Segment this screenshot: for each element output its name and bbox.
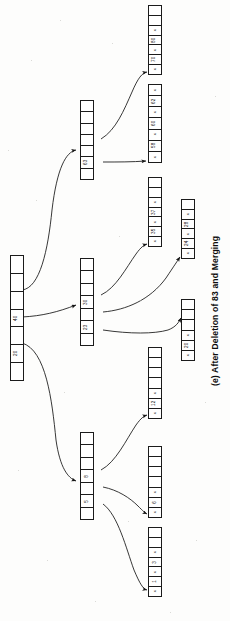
internal-node-30-23-cell-6-pointer xyxy=(81,334,93,345)
leaf-node-12-cell-2-empty xyxy=(149,368,161,378)
internal-node-30-23-cell-1-pointer xyxy=(81,271,93,283)
leaf-node-20[interactable]: x20x xyxy=(181,299,195,361)
leaf-node-28-24[interactable]: x28x24x xyxy=(181,199,195,259)
leaf-node-62-60-58-cell-6-label: x xyxy=(153,156,157,158)
leaf-node-28-24-cell-0-empty xyxy=(182,200,194,210)
leaf-node-20-cell-0-empty xyxy=(182,300,194,310)
pointer-arrows xyxy=(0,0,230,621)
leaf-node-37-35-cell-4-x: x xyxy=(149,217,161,227)
leaf-node-62-60-58-cell-0-x: x xyxy=(149,85,161,96)
leaf-node-28-24-cell-3-label: x xyxy=(186,233,190,235)
leaf-node-37-35-cell-5-label: 35 xyxy=(153,229,158,234)
leaf-node-37-35-cell-5-key: 35 xyxy=(149,227,161,237)
leaf-node-12-cell-3-empty xyxy=(149,378,161,388)
leaf-node-80-70[interactable]: x80x70x xyxy=(148,5,162,75)
figure-caption-text: (e) After Deletion of 83 and Merging xyxy=(210,235,220,385)
internal-node-8-5-cell-5-key: 5 xyxy=(81,495,93,507)
leaf-node-6-cell-5-key: 6 xyxy=(149,498,161,508)
leaf-node-80-70-cell-4-label: x xyxy=(153,49,157,51)
internal-node-8-5-cell-5-label: 5 xyxy=(85,499,90,502)
leaf-node-37-35-cell-4-label: x xyxy=(153,221,157,223)
leaf-node-62-60-58-cell-0-label: x xyxy=(153,89,157,91)
leaf-node-37-35-cell-3-label: 37 xyxy=(153,209,158,214)
leaf-node-80-70-cell-2-label: x xyxy=(153,29,157,31)
leaf-node-3-1[interactable]: x3x1x xyxy=(148,527,162,597)
leaf-node-3-1-cell-5-key: 1 xyxy=(149,577,161,587)
leaf-node-6-cell-1-empty xyxy=(149,457,161,467)
internal-node-8-5[interactable]: 85 xyxy=(80,432,94,520)
leaf-node-6-cell-2-empty xyxy=(149,467,161,477)
internal-node-8-5-cell-2-pointer xyxy=(81,458,93,470)
leaf-node-12[interactable]: x12x xyxy=(148,347,162,419)
root-node[interactable]: 4020 xyxy=(10,255,24,381)
leaf-node-12-cell-1-empty xyxy=(149,358,161,368)
leaf-node-80-70-cell-6-x: x xyxy=(149,65,161,74)
internal-node-8-5-cell-1-pointer xyxy=(81,445,93,457)
leaf-node-12-cell-5-key: 12 xyxy=(149,399,161,409)
internal-node-63-cell-3-pointer xyxy=(81,135,93,146)
leaf-node-28-24-cell-2-key: 28 xyxy=(182,220,194,230)
leaf-node-12-cell-5-label: 12 xyxy=(153,401,158,406)
internal-node-63-cell-1-pointer xyxy=(81,112,93,123)
internal-node-63-cell-2-pointer xyxy=(81,124,93,135)
leaf-node-62-60-58-cell-4-label: x xyxy=(153,133,157,135)
root-node-cell-3-key: 40 xyxy=(11,310,23,328)
b-plus-tree-figure: 4020 63 3023 85 x80x70x x62x60x58x x37x3… xyxy=(0,0,230,621)
leaf-node-20-cell-4-label: 20 xyxy=(186,343,191,348)
internal-node-30-23-cell-0-pointer xyxy=(81,259,93,271)
leaf-node-28-24-cell-4-label: 24 xyxy=(186,241,191,246)
leaf-node-62-60-58-cell-2-x: x xyxy=(149,107,161,118)
internal-node-30-23[interactable]: 3023 xyxy=(80,258,94,346)
root-node-cell-5-key: 20 xyxy=(11,345,23,363)
leaf-node-6[interactable]: x6x xyxy=(148,446,162,518)
leaf-node-12-cell-6-x: x xyxy=(149,409,161,418)
internal-node-63-cell-4-pointer xyxy=(81,146,93,157)
root-node-cell-3-label: 40 xyxy=(15,315,20,320)
root-node-cell-2-pointer xyxy=(11,292,23,310)
leaf-node-28-24-cell-1-x: x xyxy=(182,210,194,220)
internal-node-30-23-cell-5-key: 23 xyxy=(81,321,93,333)
internal-node-30-23-cell-5-label: 23 xyxy=(85,324,90,329)
leaf-node-80-70-cell-3-label: 80 xyxy=(153,37,158,42)
leaf-node-20-cell-4-key: 20 xyxy=(182,341,194,351)
leaf-node-28-24-cell-5-label: x xyxy=(186,252,190,254)
leaf-node-3-1-cell-6-x: x xyxy=(149,587,161,596)
leaf-node-80-70-cell-6-label: x xyxy=(153,68,157,70)
leaf-node-20-cell-2-empty xyxy=(182,320,194,330)
leaf-node-80-70-cell-2-x: x xyxy=(149,26,161,36)
leaf-node-62-60-58-cell-5-key: 58 xyxy=(149,141,161,152)
root-node-cell-6-pointer xyxy=(11,363,23,380)
internal-node-63[interactable]: 63 xyxy=(80,100,94,180)
leaf-node-20-cell-5-label: x xyxy=(186,354,190,356)
leaf-node-3-1-cell-2-label: x xyxy=(153,551,157,553)
leaf-node-80-70-cell-1-empty xyxy=(149,16,161,26)
leaf-node-3-1-cell-6-label: x xyxy=(153,590,157,592)
leaf-node-80-70-cell-5-key: 70 xyxy=(149,55,161,65)
leaf-node-28-24-cell-1-label: x xyxy=(186,213,190,215)
internal-node-63-cell-5-key: 63 xyxy=(81,157,93,168)
leaf-node-80-70-cell-5-label: 70 xyxy=(153,57,158,62)
leaf-node-28-24-cell-3-x: x xyxy=(182,229,194,239)
figure-caption: (e) After Deletion of 83 and Merging xyxy=(202,0,228,621)
leaf-node-37-35[interactable]: x37x35x xyxy=(148,177,162,247)
internal-node-63-cell-6-pointer xyxy=(81,169,93,179)
leaf-node-6-cell-4-label: x xyxy=(153,491,157,493)
leaf-node-6-cell-6-label: x xyxy=(153,511,157,513)
internal-node-8-5-cell-3-key: 8 xyxy=(81,470,93,482)
leaf-node-62-60-58[interactable]: x62x60x58x xyxy=(148,84,162,163)
leaf-node-80-70-cell-3-key: 80 xyxy=(149,36,161,46)
leaf-node-80-70-cell-0-empty xyxy=(149,6,161,16)
leaf-node-37-35-cell-1-empty xyxy=(149,188,161,198)
leaf-node-62-60-58-cell-1-key: 62 xyxy=(149,96,161,107)
leaf-node-37-35-cell-6-x: x xyxy=(149,237,161,246)
leaf-node-62-60-58-cell-4-x: x xyxy=(149,130,161,141)
leaf-node-20-cell-3-x: x xyxy=(182,331,194,341)
leaf-node-20-cell-3-label: x xyxy=(186,334,190,336)
internal-node-30-23-cell-3-label: 30 xyxy=(85,299,90,304)
leaf-node-12-cell-4-label: x xyxy=(153,392,157,394)
internal-node-63-cell-0-pointer xyxy=(81,101,93,112)
internal-node-30-23-cell-4-pointer xyxy=(81,309,93,321)
root-node-cell-0-pointer xyxy=(11,256,23,274)
leaf-node-3-1-cell-4-label: x xyxy=(153,571,157,573)
internal-node-8-5-cell-0-pointer xyxy=(81,433,93,445)
